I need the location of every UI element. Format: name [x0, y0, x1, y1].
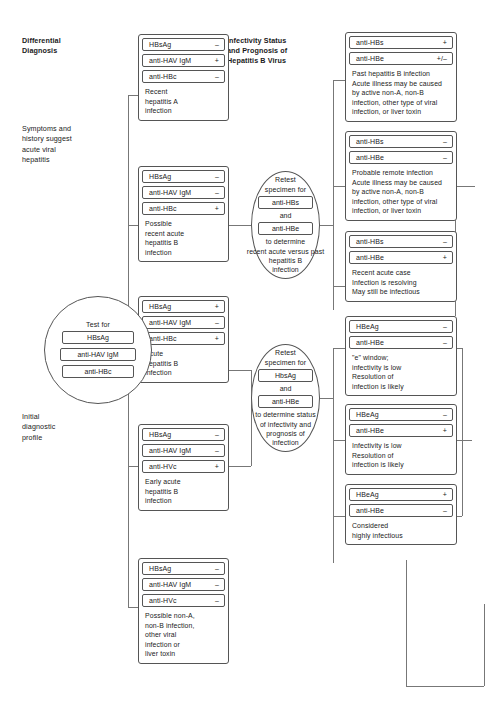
assay-row[interactable]: anti-HBs + — [349, 36, 453, 49]
assay-row[interactable]: anti-HAV IgM – — [142, 186, 225, 199]
connector-middle-4 — [128, 466, 138, 467]
result-group-middle-5[interactable]: HBsAg – anti-HAV IgM – anti-HVc – Possib… — [138, 558, 229, 664]
test-for-item-anti-hbc[interactable]: anti-HBc — [62, 365, 134, 378]
assay-sign: – — [205, 597, 219, 604]
retest-2-item-hbsag[interactable]: HbsAg — [258, 369, 313, 382]
test-for-title: Test for — [86, 320, 110, 330]
assay-sign: +/– — [433, 55, 447, 62]
assay-sign: – — [205, 431, 219, 438]
assay-row[interactable]: HBsAg – — [142, 562, 225, 575]
assay-row[interactable]: anti-HVc + — [142, 460, 225, 473]
result-group-middle-3[interactable]: HBsAg + anti-HAV IgM – anti-HBc + Acute … — [138, 296, 229, 383]
assay-label: anti-HBe — [356, 254, 384, 261]
assay-sign: – — [205, 173, 219, 180]
assay-sign: – — [205, 319, 219, 326]
result-group-right-6[interactable]: HBeAg + anti-HBe – Considered highly inf… — [345, 484, 457, 545]
retest-2-item-anti-hbe[interactable]: anti-HBe — [258, 395, 313, 408]
assay-sign: – — [433, 154, 447, 161]
assay-sign: + — [433, 39, 447, 46]
conclusion-text: Possible non-A, non-B infection, other v… — [142, 610, 225, 660]
assay-label: anti-HBs — [356, 39, 384, 46]
assay-label: HBeAg — [356, 411, 379, 418]
assay-label: anti-HBc — [149, 73, 177, 80]
result-group-right-1[interactable]: anti-HBs + anti-HBe +/– Past hepatitis B… — [345, 32, 457, 122]
assay-row[interactable]: anti-HBe – — [349, 336, 453, 349]
retest-2-conjunction: and — [280, 384, 292, 393]
connector-middle-5 — [128, 607, 138, 608]
conclusion-text: Recent hepatitis A infection — [142, 86, 225, 117]
note-symptoms-history: Symptoms and history suggest acute viral… — [22, 124, 127, 166]
assay-row[interactable]: anti-HVc – — [142, 594, 225, 607]
test-for-item-hbsag[interactable]: HBsAg — [62, 331, 134, 344]
feedback-line-b-vert — [462, 348, 463, 440]
result-group-right-4[interactable]: HBeAg – anti-HBe – "e" window; infectivi… — [345, 316, 457, 396]
assay-label: anti-HVc — [149, 597, 177, 604]
assay-row[interactable]: anti-HAV IgM + — [142, 54, 225, 67]
connector-group4-to-retest2 — [229, 466, 251, 467]
connector-right-spine-a — [333, 80, 334, 310]
assay-row[interactable]: HBsAg + — [142, 300, 225, 313]
result-group-right-3[interactable]: anti-HBs – anti-HBe + Recent acute case … — [345, 231, 457, 302]
connector-right-6 — [333, 516, 345, 517]
conclusion-text: Probable remote infection Acute illness … — [349, 167, 453, 217]
assay-row[interactable]: anti-HBc + — [142, 332, 225, 345]
assay-row[interactable]: anti-HAV IgM – — [142, 578, 225, 591]
connector-middle-1 — [128, 95, 138, 96]
assay-row[interactable]: anti-HBe + — [349, 424, 453, 437]
assay-sign: – — [433, 411, 447, 418]
assay-sign: – — [205, 73, 219, 80]
assay-row[interactable]: anti-HBe – — [349, 151, 453, 164]
retest-circle-1[interactable]: Retest specimen for anti-HBs and anti-HB… — [251, 171, 320, 279]
connector-right-4 — [333, 348, 345, 349]
test-for-item-anti-hav-igm[interactable]: anti-HAV IgM — [60, 348, 136, 361]
assay-row[interactable]: HBsAg – — [142, 38, 225, 51]
assay-row[interactable]: anti-HBc – — [142, 70, 225, 83]
assay-row[interactable]: anti-HBe +/– — [349, 52, 453, 65]
conclusion-text: Past hepatitis B infection Acute illness… — [349, 68, 453, 118]
feedback-line-a-top — [455, 186, 475, 187]
retest-1-item-anti-hbs[interactable]: anti-HBs — [258, 196, 313, 209]
assay-row[interactable]: HBeAg – — [349, 320, 453, 333]
feedback-loop-long-riser — [484, 604, 485, 686]
assay-label: HBeAg — [356, 491, 379, 498]
connector-right-3 — [333, 286, 345, 287]
heading-differential-diagnosis: Differential Diagnosis — [22, 36, 122, 56]
assay-row[interactable]: anti-HAV IgM – — [142, 444, 225, 457]
assay-sign: + — [433, 427, 447, 434]
assay-sign: – — [205, 189, 219, 196]
assay-label: anti-HBc — [149, 335, 177, 342]
assay-label: anti-HAV IgM — [149, 447, 191, 454]
test-for-circle[interactable]: Test for HBsAg anti-HAV IgM anti-HBc — [44, 296, 152, 404]
connector-group3-to-retest2 — [229, 370, 251, 371]
retest-circle-2[interactable]: Retest specimen for HbsAg and anti-HBe t… — [251, 344, 320, 452]
assay-row[interactable]: anti-HBe – — [349, 504, 453, 517]
assay-row[interactable]: HBeAg – — [349, 408, 453, 421]
assay-row[interactable]: anti-HAV IgM – — [142, 316, 225, 329]
assay-row[interactable]: anti-HBs – — [349, 135, 453, 148]
retest-1-item-anti-hbe[interactable]: anti-HBe — [258, 222, 313, 235]
assay-sign: + — [205, 463, 219, 470]
assay-label: anti-HBe — [356, 154, 384, 161]
assay-label: anti-HBe — [356, 507, 384, 514]
result-group-right-2[interactable]: anti-HBs – anti-HBe – Probable remote in… — [345, 131, 457, 221]
result-group-right-5[interactable]: HBeAg – anti-HBe + Infectivity is low Re… — [345, 404, 457, 475]
conclusion-text: Early acute hepatitis B infection — [142, 476, 225, 507]
assay-row[interactable]: HBsAg – — [142, 170, 225, 183]
assay-label: HBsAg — [149, 173, 171, 180]
assay-label: anti-HBe — [356, 339, 384, 346]
assay-label: anti-HBs — [356, 238, 384, 245]
assay-row[interactable]: anti-HBs – — [349, 235, 453, 248]
note-initial-diagnostic-profile: Initial diagnostic profile — [22, 412, 127, 443]
heading-infectivity-status: Infectivity Status and Prognosis of Hepa… — [227, 36, 332, 66]
assay-row[interactable]: HBeAg + — [349, 488, 453, 501]
assay-row[interactable]: HBsAg – — [142, 428, 225, 441]
assay-row[interactable]: anti-HBc + — [142, 202, 225, 215]
result-group-middle-2[interactable]: HBsAg – anti-HAV IgM – anti-HBc + Possib… — [138, 166, 229, 262]
result-group-middle-4[interactable]: HBsAg – anti-HAV IgM – anti-HVc + Early … — [138, 424, 229, 511]
assay-row[interactable]: anti-HBe + — [349, 251, 453, 264]
result-group-middle-1[interactable]: HBsAg – anti-HAV IgM + anti-HBc – Recent… — [138, 34, 229, 121]
conclusion-text: Possible recent acute hepatitis B infect… — [142, 218, 225, 258]
connector-right-5 — [333, 440, 345, 441]
assay-sign: – — [205, 447, 219, 454]
assay-label: HBsAg — [149, 431, 171, 438]
